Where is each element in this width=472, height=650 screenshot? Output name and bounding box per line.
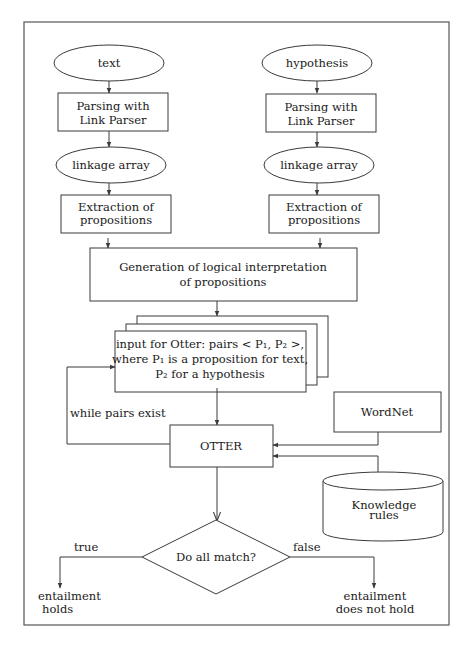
node-label: Extraction of: [78, 200, 155, 214]
node-otter: OTTER: [170, 425, 273, 467]
node-label: Parsing with: [284, 100, 358, 114]
edge-label-true: true: [74, 540, 99, 554]
node-label: linkage array: [72, 158, 150, 172]
node-label: OTTER: [200, 439, 242, 453]
result-holds: holds: [42, 602, 73, 616]
result-not-holds: does not hold: [336, 602, 415, 616]
node-knowledge-rules: Knowledge rules: [323, 472, 443, 541]
node-label: P₂ for a hypothesis: [155, 367, 264, 381]
node-label: Link Parser: [287, 114, 355, 128]
result-not-holds: entailment: [344, 589, 407, 603]
node-linkage-text: linkage array: [56, 147, 166, 183]
arrow-true: [60, 557, 142, 588]
node-label: Generation of logical interpretation: [119, 260, 327, 274]
node-label: WordNet: [361, 405, 414, 419]
result-holds: entailment: [38, 589, 101, 603]
node-text-input: text: [54, 45, 164, 81]
node-linkage-hyp: linkage array: [264, 147, 374, 183]
node-label: Parsing with: [76, 99, 150, 113]
edge-label-loop: while pairs exist: [70, 406, 166, 420]
node-label: Do all match?: [176, 550, 256, 564]
node-label: Extraction of: [286, 200, 363, 214]
arrow-false: [290, 557, 374, 588]
flowchart: text Parsing with Link Parser linkage ar…: [0, 0, 472, 650]
node-decision: Do all match?: [142, 520, 290, 594]
node-parse-hyp: Parsing with Link Parser: [266, 94, 376, 132]
node-label: propositions: [80, 213, 152, 227]
node-label: input for Otter: pairs < P₁, P₂ >,: [116, 337, 304, 351]
node-label: of propositions: [179, 275, 266, 289]
node-label: hypothesis: [286, 56, 349, 70]
arrow-wordnet-otter: [273, 432, 378, 445]
node-label: rules: [369, 508, 398, 522]
edge-label-false: false: [293, 540, 321, 554]
node-label: propositions: [288, 213, 360, 227]
node-label: text: [98, 56, 121, 70]
node-label: Link Parser: [79, 113, 147, 127]
node-extract-text: Extraction of propositions: [61, 195, 171, 233]
node-wordnet: WordNet: [334, 392, 441, 432]
node-hypothesis-input: hypothesis: [262, 45, 372, 81]
node-parse-text: Parsing with Link Parser: [58, 93, 168, 131]
node-extract-hyp: Extraction of propositions: [269, 195, 379, 233]
node-generation: Generation of logical interpretation of …: [90, 248, 357, 301]
arrow-knowledge-otter: [273, 456, 378, 472]
node-label: where P₁ is a proposition for text,: [112, 352, 308, 366]
node-label: linkage array: [280, 158, 358, 172]
node-otter-input: input for Otter: pairs < P₁, P₂ >, where…: [112, 316, 328, 392]
